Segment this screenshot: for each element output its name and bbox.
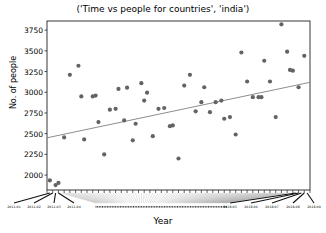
x-tick-label: 2011-02: [27, 205, 40, 209]
x-tick-label-dense: [146, 206, 147, 208]
data-point: [139, 81, 143, 85]
x-tick-leader: [150, 193, 156, 203]
x-tick-label-dense: [200, 206, 201, 208]
data-point: [228, 115, 232, 119]
data-point: [219, 98, 223, 102]
x-tick-label-dense: [131, 206, 132, 208]
x-tick-label-dense: [214, 206, 215, 208]
plot-area: [0, 0, 326, 233]
x-tick-label-dense: [120, 206, 121, 208]
x-tick-label-dense: [190, 206, 191, 208]
x-tick-label-dense: [128, 206, 129, 208]
x-tick-label-dense: [102, 206, 103, 208]
data-point: [245, 79, 249, 83]
x-tick-label-dense: [110, 206, 111, 208]
x-tick-label-dense: [100, 206, 101, 208]
data-point: [188, 73, 192, 77]
x-tick-label-dense: [154, 206, 155, 208]
x-tick-label-dense: [136, 206, 137, 208]
x-tick-leader: [164, 193, 181, 203]
x-tick-label: 2011-01: [7, 205, 20, 209]
data-point: [262, 59, 266, 63]
x-tick-leader: [174, 193, 198, 203]
x-tick-label-dense: [218, 206, 219, 208]
x-tick-label-dense: [172, 206, 173, 208]
x-tick-label-dense: [112, 206, 113, 208]
data-point: [93, 93, 97, 97]
x-tick-label: 2018-07: [265, 205, 278, 209]
x-tick-leader: [101, 193, 119, 203]
x-tick-label-dense: [117, 206, 118, 208]
data-point: [48, 178, 52, 182]
data-point: [116, 87, 120, 91]
x-tick-label-dense: [164, 206, 165, 208]
x-tick-label-dense: [159, 206, 160, 208]
x-tick-label-dense: [177, 206, 178, 208]
x-tick-leader: [121, 193, 130, 203]
data-point: [199, 100, 203, 104]
x-tick-label-dense: [115, 206, 116, 208]
x-tick-leader: [138, 193, 140, 203]
trend-line: [47, 82, 310, 138]
x-tick-label-dense: [188, 206, 189, 208]
x-tick-label-dense: [122, 206, 123, 208]
x-tick-label-dense: [143, 206, 144, 208]
data-point: [131, 138, 135, 142]
x-tick-label-dense: [167, 206, 168, 208]
data-point: [125, 86, 129, 90]
x-tick-leader: [207, 193, 256, 203]
x-tick-label-dense: [197, 206, 198, 208]
x-tick-label-dense: [125, 206, 126, 208]
x-tick-label-dense: [166, 206, 167, 208]
x-tick-leader: [158, 193, 170, 203]
x-tick-label-dense: [201, 206, 202, 208]
data-point: [239, 50, 243, 54]
x-tick-label-dense: [138, 206, 139, 208]
x-tick-label-dense: [206, 206, 207, 208]
x-tick-leader: [307, 193, 314, 203]
x-tick-label-dense: [179, 206, 180, 208]
x-tick-label-dense: [219, 206, 220, 208]
x-tick-label-dense: [182, 206, 183, 208]
data-point: [62, 135, 66, 139]
x-tick-leader: [171, 193, 193, 203]
x-tick-label-dense: [149, 206, 150, 208]
x-tick-leader: [161, 193, 175, 203]
data-point: [268, 79, 272, 83]
x-tick-label-dense: [113, 206, 114, 208]
x-tick-leader: [143, 193, 144, 203]
data-point: [108, 108, 112, 112]
x-tick-label-dense: [187, 206, 188, 208]
x-tick-leader: [153, 193, 161, 203]
x-tick-label-dense: [96, 206, 97, 208]
data-point: [79, 94, 83, 98]
x-tick-label-dense: [216, 206, 217, 208]
x-tick-label-dense: [156, 206, 157, 208]
x-tick-label-dense: [130, 206, 131, 208]
data-point: [114, 107, 118, 111]
x-tick-label-dense: [144, 206, 145, 208]
data-point: [96, 120, 100, 124]
x-tick-label-dense: [169, 206, 170, 208]
x-tick-label-dense: [157, 206, 158, 208]
x-tick-leader: [145, 193, 147, 203]
x-tick-label-dense: [161, 206, 162, 208]
data-point: [259, 95, 263, 99]
x-tick-leader: [151, 193, 158, 203]
x-tick-label-dense: [140, 206, 141, 208]
x-tick-label: 2018-08: [286, 205, 299, 209]
data-point: [56, 181, 60, 185]
x-tick-leader: [147, 193, 150, 203]
x-tick-label-dense: [174, 206, 175, 208]
data-point: [176, 156, 180, 160]
x-tick-label-dense: [198, 206, 199, 208]
data-point: [222, 117, 226, 121]
x-tick-label-dense: [162, 206, 163, 208]
x-tick-label-dense: [109, 206, 110, 208]
x-tick-label: 2011-04: [67, 205, 80, 209]
data-point: [202, 85, 206, 89]
x-tick-label-dense: [175, 206, 176, 208]
data-point: [194, 109, 198, 113]
data-point: [182, 84, 186, 88]
x-tick-label: 2018-09: [307, 205, 320, 209]
